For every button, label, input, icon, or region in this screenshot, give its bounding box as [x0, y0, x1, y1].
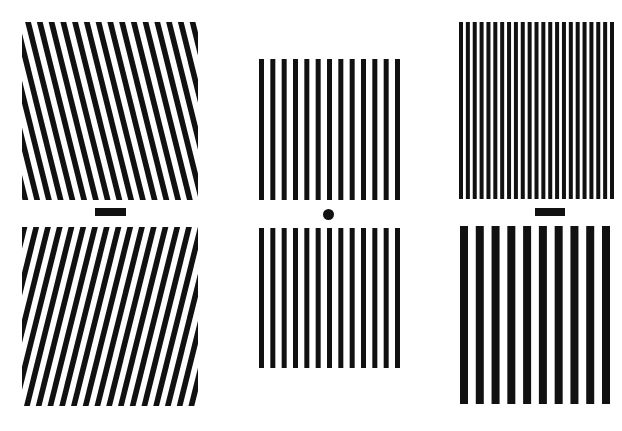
- left-fixation-bar: [95, 208, 126, 216]
- left-bottom-grating: [22, 227, 198, 406]
- right-fixation-bar: [535, 208, 565, 216]
- middle-top-grating: [259, 59, 400, 200]
- right-top-grating: [459, 22, 614, 199]
- middle-bottom-grating: [259, 228, 400, 368]
- right-bottom-grating: [460, 226, 610, 404]
- middle-fixation-dot: [323, 209, 334, 220]
- left-top-grating: [22, 22, 198, 200]
